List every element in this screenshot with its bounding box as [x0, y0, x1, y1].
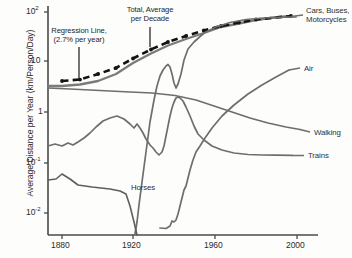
total-annotation-line2: per Decade	[112, 14, 188, 23]
total-annotation-line1: Total, Average	[112, 5, 188, 14]
x-tick-label-2000: 2000	[286, 240, 305, 250]
y-tick-label-0-1: 10-1	[26, 157, 40, 167]
x-tick-label-1880: 1880	[51, 240, 70, 250]
y-tick-label-100: 102	[26, 6, 39, 16]
series-label-cars-line2: Motorcycles	[306, 15, 349, 24]
y-axis-title: Average Distance per Year (km/Person/Day…	[25, 21, 35, 205]
series-label-air: Air	[304, 64, 313, 73]
x-tick-label-1960: 1960	[204, 240, 223, 250]
chart-figure: Average Distance per Year (km/Person/Day…	[0, 0, 352, 258]
regression-annotation: Regression Line, (2.7% per year)	[38, 26, 120, 44]
series-air	[160, 70, 289, 229]
regression-annotation-line2: (2.7% per year)	[38, 35, 120, 44]
series-label-cars-line1: Cars, Buses,	[306, 6, 349, 15]
cars-label-connector	[291, 15, 303, 17]
series-label-horses: Horses	[131, 183, 155, 192]
y-tick-label-10: 10	[31, 55, 40, 65]
series-label-cars: Cars, Buses, Motorcycles	[306, 6, 349, 24]
series-regression-markers	[60, 14, 293, 83]
total-annotation: Total, Average per Decade	[112, 5, 188, 23]
y-tick-label-1: 1	[38, 106, 43, 116]
walking-label-connector	[300, 130, 310, 133]
air-label-connector	[289, 68, 300, 70]
series-trains	[48, 97, 292, 155]
series-label-walking: Walking	[314, 128, 341, 137]
x-tick-label-1920: 1920	[122, 240, 141, 250]
regression-annotation-line1: Regression Line,	[38, 26, 120, 35]
series-walking	[48, 88, 300, 130]
y-tick-label-0-01: 10-2	[26, 207, 40, 217]
series-label-trains: Trains	[308, 151, 329, 160]
series-horses	[48, 174, 137, 235]
